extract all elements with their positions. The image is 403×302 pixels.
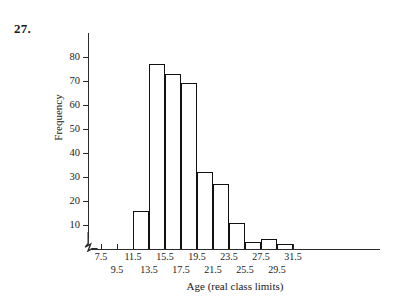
x-tick-label: 17.5 xyxy=(164,265,198,275)
y-tick xyxy=(83,201,89,202)
plot-area: 1020304050607080 7.59.511.513.515.517.51… xyxy=(0,0,403,302)
histogram-bar xyxy=(149,64,165,249)
x-tick-label: 21.5 xyxy=(196,265,230,275)
y-axis-line xyxy=(88,33,89,239)
y-tick xyxy=(83,177,89,178)
x-tick-label: 27.5 xyxy=(244,252,278,262)
histogram-bar xyxy=(261,239,277,249)
x-tick xyxy=(117,244,118,250)
histogram-bar xyxy=(197,172,213,249)
y-tick-label: 20 xyxy=(60,196,80,207)
y-tick xyxy=(83,105,89,106)
y-tick xyxy=(83,225,89,226)
x-tick-label: 11.5 xyxy=(116,252,150,262)
y-tick xyxy=(83,57,89,58)
y-tick xyxy=(83,81,89,82)
y-axis-title: Frequency xyxy=(53,58,64,178)
x-tick xyxy=(101,244,102,250)
histogram-bar xyxy=(245,242,261,249)
histogram-bar xyxy=(229,223,245,249)
x-tick-label: 13.5 xyxy=(132,265,166,275)
y-tick-label: 10 xyxy=(60,220,80,231)
histogram-bar xyxy=(277,244,293,249)
histogram-bar xyxy=(165,74,181,249)
axis-break-icon xyxy=(84,232,98,252)
x-tick-label: 23.5 xyxy=(212,252,246,262)
x-tick-label: 29.5 xyxy=(260,265,294,275)
histogram-bar xyxy=(181,83,197,249)
x-tick-label: 15.5 xyxy=(148,252,182,262)
histogram-bar xyxy=(213,184,229,249)
y-tick xyxy=(83,153,89,154)
x-axis-title: Age (real class limits) xyxy=(90,281,380,292)
y-tick xyxy=(83,129,89,130)
histogram-bar xyxy=(133,211,149,249)
x-tick-label: 19.5 xyxy=(180,252,214,262)
x-tick-label: 9.5 xyxy=(100,265,134,275)
histogram-figure: 27. 1020304050607080 7.59.511.513.515.51… xyxy=(0,0,403,302)
x-tick-label: 25.5 xyxy=(228,265,262,275)
x-tick xyxy=(293,244,294,250)
x-tick-label: 31.5 xyxy=(276,252,310,262)
x-tick-label: 7.5 xyxy=(84,252,118,262)
